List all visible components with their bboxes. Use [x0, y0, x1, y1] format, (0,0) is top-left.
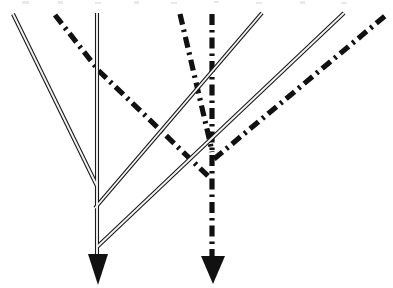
scan-artifact-speck: [171, 2, 177, 4]
scan-artifact-speck: [300, 1, 305, 4]
scan-artifact-speck: [214, 1, 219, 3]
ray-diagram-svg: [0, 0, 393, 288]
scan-artifact-speck: [22, 1, 29, 4]
scan-artifact-speck: [95, 2, 101, 4]
scan-artifact-speck: [256, 2, 262, 4]
scan-artifact-speck: [341, 2, 347, 4]
ray-diagram-canvas: [0, 0, 393, 288]
scan-artifact-speck: [58, 1, 63, 4]
scan-artifact-speck: [134, 1, 139, 4]
diagram-background: [0, 0, 393, 288]
